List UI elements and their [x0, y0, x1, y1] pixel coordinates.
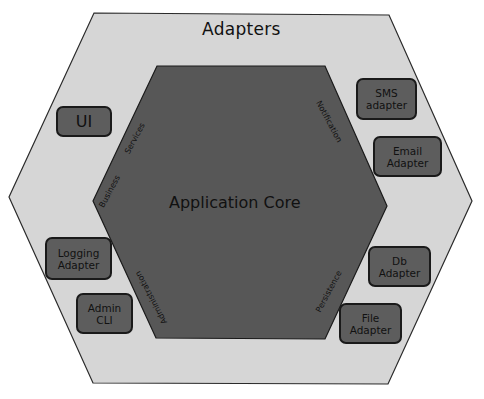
label-line: Adapter	[350, 324, 392, 336]
label-line: Adapter	[387, 157, 429, 169]
adapter-logging: Logging Adapter	[45, 237, 112, 280]
adapter-ui: UI	[56, 106, 112, 137]
application-core-title: Application Core	[169, 193, 301, 212]
label-line: File	[362, 312, 380, 324]
adapter-db: Db Adapter	[368, 246, 431, 287]
adapters-title: Adapters	[202, 19, 281, 39]
label-line: Adapter	[58, 259, 100, 271]
label-line: adapter	[366, 99, 407, 111]
label-line: Admin	[88, 302, 121, 314]
adapter-file-label: File Adapter	[350, 312, 392, 336]
label-line: CLI	[96, 314, 112, 326]
adapter-db-label: Db Adapter	[379, 255, 421, 279]
adapter-ui-label: UI	[76, 116, 92, 128]
adapter-admin-cli-label: Admin CLI	[88, 302, 121, 326]
adapter-sms: SMS adapter	[356, 78, 417, 120]
label-line: Logging	[58, 247, 100, 259]
label-line: SMS	[375, 87, 397, 99]
adapter-sms-label: SMS adapter	[366, 87, 407, 111]
adapter-file: File Adapter	[339, 303, 402, 344]
adapter-email: Email Adapter	[373, 136, 442, 177]
label-line: Adapter	[379, 267, 421, 279]
label-line: Email	[393, 145, 422, 157]
label-line: Db	[392, 255, 407, 267]
adapter-admin-cli: Admin CLI	[76, 293, 133, 334]
adapter-email-label: Email Adapter	[387, 145, 429, 169]
adapter-logging-label: Logging Adapter	[58, 247, 100, 271]
